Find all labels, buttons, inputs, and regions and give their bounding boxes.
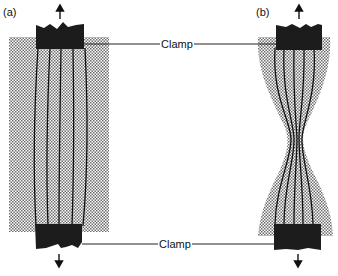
specimen-b bbox=[258, 37, 333, 236]
top-clamp-a bbox=[36, 22, 84, 49]
up-arrow-icon bbox=[57, 5, 64, 19]
bottom-clamp-a bbox=[35, 224, 82, 249]
panel-label-b: (b) bbox=[256, 6, 269, 18]
down-arrow-icon bbox=[56, 254, 63, 267]
tensile-necking-diagram: (a) (b) Clamp Clamp bbox=[0, 0, 338, 276]
bottom-clamp-b bbox=[274, 224, 321, 250]
clamp-leader-lines bbox=[82, 44, 276, 244]
panel-label-a: (a) bbox=[3, 6, 16, 18]
down-arrow-icon bbox=[295, 254, 302, 267]
bottom-clamp-label: Clamp bbox=[158, 238, 192, 250]
up-arrow-icon bbox=[296, 5, 303, 19]
top-clamp-label: Clamp bbox=[160, 38, 194, 50]
top-clamp-b bbox=[276, 24, 322, 50]
